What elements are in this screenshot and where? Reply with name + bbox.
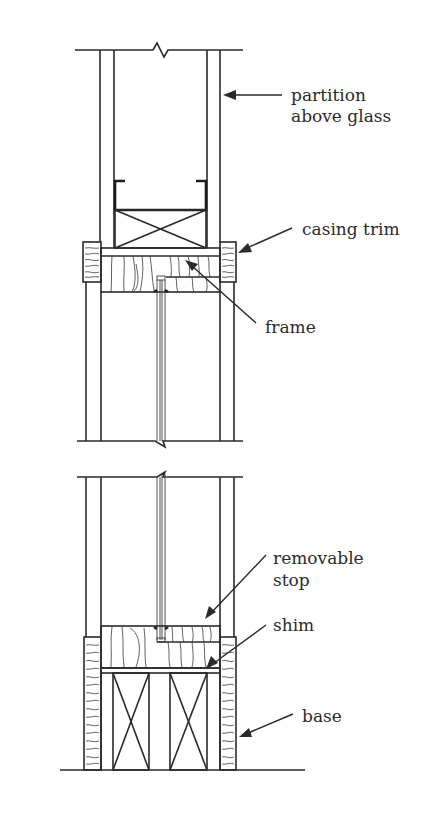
base-block-left <box>113 673 149 770</box>
glass-pane-upper <box>154 280 168 441</box>
label-removable-stop-line2: stop <box>273 570 310 590</box>
label-base: base <box>302 706 342 726</box>
label-shim: shim <box>273 615 314 635</box>
arrowhead-icon <box>238 243 252 253</box>
head-frame-wood <box>101 248 220 292</box>
label-partition-line1: partition <box>291 85 366 105</box>
base-trim-left <box>84 637 101 770</box>
label-frame: frame <box>265 317 316 337</box>
glass-pane-lower <box>154 474 168 640</box>
label-removable-stop-line1: removable <box>273 548 364 568</box>
sill-frame-wood <box>101 626 220 668</box>
arrowhead-icon <box>223 90 236 100</box>
upper-section <box>75 43 243 447</box>
arrowhead-icon <box>239 728 252 737</box>
callout-casing-trim: casing trim <box>238 219 400 253</box>
callout-base: base <box>239 706 342 737</box>
mid-break-line-lower <box>77 472 243 477</box>
callouts: partition above glass casing trim frame … <box>185 85 400 737</box>
casing-trim-right <box>220 242 236 282</box>
label-casing-trim: casing trim <box>302 219 400 239</box>
glazed-partition-section-diagram: partition above glass casing trim frame … <box>0 0 426 815</box>
c-channel-header <box>115 181 206 210</box>
arrowhead-icon <box>205 606 216 619</box>
base-block-right <box>170 673 207 770</box>
lower-section <box>60 472 305 770</box>
callout-removable-stop: removable stop <box>205 548 364 619</box>
mid-break-line-upper <box>77 441 243 447</box>
arrowhead-icon <box>206 656 218 669</box>
callout-partition: partition above glass <box>223 85 391 126</box>
casing-trim-left <box>83 242 101 282</box>
blocking-x <box>115 210 206 248</box>
callout-frame: frame <box>185 260 316 337</box>
label-partition-line2: above glass <box>291 106 391 126</box>
